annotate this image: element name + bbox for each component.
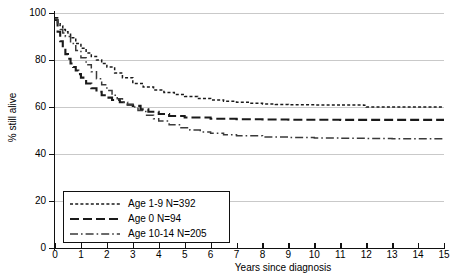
legend-line-swatch: [69, 213, 121, 225]
x-axis-title: Years since diagnosis: [0, 262, 454, 273]
legend-line-swatch: [69, 228, 121, 240]
legend-item: Age 0 N=94: [69, 211, 224, 226]
legend-line-swatch: [69, 198, 121, 210]
legend-item: Age 1-9 N=392: [69, 196, 224, 211]
legend-label: Age 0 N=94: [121, 213, 181, 224]
survival-chart: % still alive 020406080100 0123456789101…: [0, 0, 454, 280]
legend: Age 1-9 N=392Age 0 N=94Age 10-14 N=205: [63, 191, 230, 243]
legend-label: Age 10-14 N=205: [121, 228, 207, 239]
series-line-1: [55, 20, 444, 120]
legend-item: Age 10-14 N=205: [69, 226, 224, 241]
legend-label: Age 1-9 N=392: [121, 198, 196, 209]
series-line-0: [55, 18, 444, 107]
